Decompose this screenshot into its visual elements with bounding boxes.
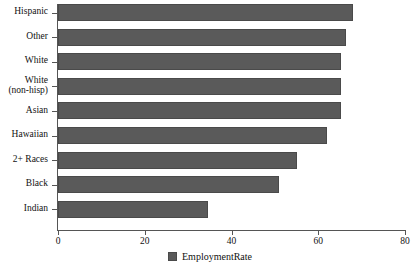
y-axis-tick [52, 136, 57, 137]
x-axis-tick [318, 231, 319, 235]
y-axis-tick [52, 111, 57, 112]
category-label: 2+ Races [13, 154, 48, 165]
legend-swatch-icon [168, 252, 177, 261]
category-label: Hispanic [14, 6, 48, 17]
x-axis-tick-label: 60 [303, 236, 333, 247]
bar-2--races[interactable] [58, 152, 297, 169]
x-axis-tick [405, 231, 406, 235]
x-axis-tick [232, 231, 233, 235]
bar-indian[interactable] [58, 201, 208, 218]
x-axis-tick-label: 80 [390, 236, 420, 247]
bar-asian[interactable] [58, 102, 341, 119]
category-label: Black [26, 178, 48, 189]
chart-legend: EmploymentRate [0, 251, 420, 262]
y-axis-tick [52, 37, 57, 38]
y-axis-tick [52, 160, 57, 161]
x-axis-tick-label: 20 [130, 236, 160, 247]
category-label: Hawaiian [12, 129, 48, 140]
x-axis-tick-label: 40 [217, 236, 247, 247]
y-axis-tick [52, 185, 57, 186]
bar-white--non-hisp-[interactable] [58, 78, 341, 95]
category-label: White [25, 55, 48, 66]
x-axis-tick [58, 231, 59, 235]
category-label: White (non-hisp) [8, 75, 48, 96]
y-axis-tick [52, 13, 57, 14]
x-axis-tick [145, 231, 146, 235]
employment-rate-bar-chart: HispanicOtherWhiteWhite (non-hisp)AsianH… [0, 0, 420, 267]
y-axis-tick [52, 209, 57, 210]
bar-hispanic[interactable] [58, 4, 353, 21]
category-label: Asian [26, 105, 48, 116]
legend-label: EmploymentRate [182, 251, 252, 262]
bar-black[interactable] [58, 176, 279, 193]
x-axis-tick-label: 0 [43, 236, 73, 247]
y-axis-tick [52, 86, 57, 87]
y-axis-tick [52, 62, 57, 63]
bar-white[interactable] [58, 53, 341, 70]
bar-other[interactable] [58, 29, 346, 46]
category-label: Indian [24, 203, 48, 214]
bar-hawaiian[interactable] [58, 127, 327, 144]
category-label: Other [26, 31, 48, 42]
